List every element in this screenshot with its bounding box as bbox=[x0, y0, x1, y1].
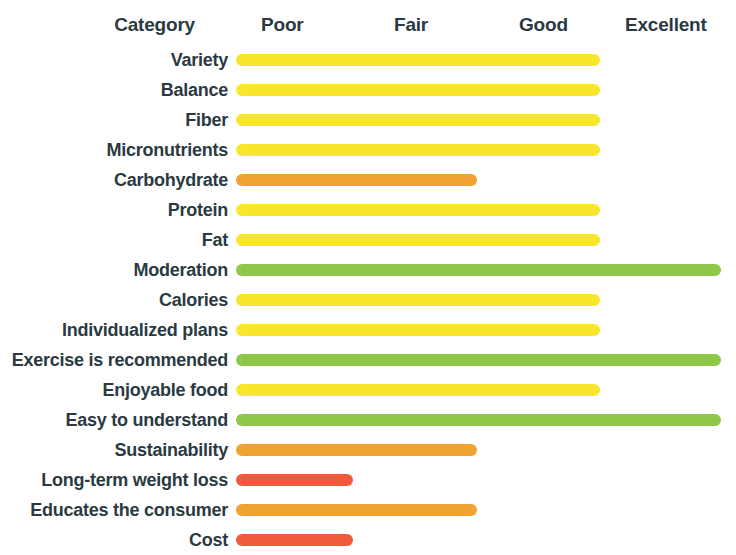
rating-bar bbox=[236, 54, 600, 66]
row-label: Sustainability bbox=[114, 437, 228, 463]
chart-row: Variety bbox=[0, 47, 736, 73]
row-label: Calories bbox=[159, 287, 228, 313]
row-label: Easy to understand bbox=[65, 407, 228, 433]
row-label: Balance bbox=[161, 77, 228, 103]
chart-row: Exercise is recommended bbox=[0, 347, 736, 373]
chart-row: Individualized plans bbox=[0, 317, 736, 343]
row-label: Exercise is recommended bbox=[12, 347, 228, 373]
rating-bar-chart: Category Poor Fair Good Excellent Variet… bbox=[0, 0, 736, 555]
row-label: Protein bbox=[168, 197, 228, 223]
row-label: Micronutrients bbox=[106, 137, 228, 163]
rating-bar bbox=[236, 264, 721, 276]
chart-row: Protein bbox=[0, 197, 736, 223]
row-label: Fat bbox=[202, 227, 228, 253]
rating-bar bbox=[236, 354, 721, 366]
rating-bar bbox=[236, 444, 477, 456]
rating-bar bbox=[236, 114, 600, 126]
row-label: Cost bbox=[189, 527, 228, 553]
rating-bar bbox=[236, 294, 600, 306]
rating-bar bbox=[236, 204, 600, 216]
rating-bar bbox=[236, 234, 600, 246]
chart-row: Carbohydrate bbox=[0, 167, 736, 193]
chart-row: Educates the consumer bbox=[0, 497, 736, 523]
chart-row: Easy to understand bbox=[0, 407, 736, 433]
rating-bar bbox=[236, 474, 353, 486]
chart-row: Enjoyable food bbox=[0, 377, 736, 403]
rating-bar bbox=[236, 324, 600, 336]
column-header-good: Good bbox=[519, 12, 568, 38]
row-label: Educates the consumer bbox=[30, 497, 228, 523]
chart-row: Long-term weight loss bbox=[0, 467, 736, 493]
chart-row: Fat bbox=[0, 227, 736, 253]
row-label: Enjoyable food bbox=[102, 377, 228, 403]
rating-bar bbox=[236, 384, 600, 396]
chart-row: Cost bbox=[0, 527, 736, 553]
row-label: Long-term weight loss bbox=[41, 467, 228, 493]
column-header-fair: Fair bbox=[394, 12, 428, 38]
rating-bar bbox=[236, 534, 353, 546]
column-header-poor: Poor bbox=[261, 12, 303, 38]
chart-row: Balance bbox=[0, 77, 736, 103]
column-header-excellent: Excellent bbox=[625, 12, 707, 38]
rating-bar bbox=[236, 174, 477, 186]
chart-row: Micronutrients bbox=[0, 137, 736, 163]
row-label: Moderation bbox=[134, 257, 229, 283]
chart-row: Sustainability bbox=[0, 437, 736, 463]
column-header-category: Category bbox=[114, 12, 195, 38]
chart-row: Moderation bbox=[0, 257, 736, 283]
row-label: Variety bbox=[171, 47, 228, 73]
chart-row: Fiber bbox=[0, 107, 736, 133]
row-label: Individualized plans bbox=[62, 317, 228, 343]
row-label: Fiber bbox=[185, 107, 228, 133]
chart-header-row: Category Poor Fair Good Excellent bbox=[0, 12, 736, 38]
rating-bar bbox=[236, 414, 721, 426]
row-label: Carbohydrate bbox=[114, 167, 228, 193]
rating-bar bbox=[236, 144, 600, 156]
rating-bar bbox=[236, 84, 600, 96]
rating-bar bbox=[236, 504, 477, 516]
chart-row: Calories bbox=[0, 287, 736, 313]
